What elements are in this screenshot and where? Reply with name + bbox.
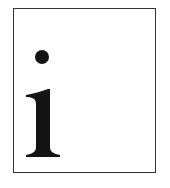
info-icon: [0, 0, 170, 188]
info-dot: [35, 50, 49, 64]
info-stem: [26, 89, 60, 157]
